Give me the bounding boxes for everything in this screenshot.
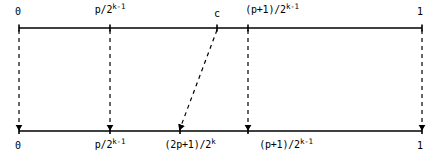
- bottom-label-one: 1: [417, 140, 423, 151]
- top-label-c: c: [214, 8, 220, 19]
- top-label-zero: 0: [15, 6, 21, 17]
- bottom-label-2p1-over-2k: (2p+1)/2k: [165, 139, 216, 150]
- top-label-p1-over-2k1: (p+1)/2k-1: [245, 4, 299, 15]
- bottom-label-p1-over-2k1: (p+1)/2k-1: [259, 139, 313, 150]
- bottom-label-p-over-2k1: p/2k-1: [95, 139, 125, 150]
- connector-c-to-mid: [181, 30, 217, 126]
- bottom-number-line: [19, 128, 422, 134]
- interval-mapping-figure: 0 p/2k-1 c (p+1)/2k-1 1 0 p/2k-1 (2p+1)/…: [0, 0, 438, 167]
- top-label-p-over-2k1: p/2k-1: [95, 4, 125, 15]
- top-number-line: [19, 25, 422, 32]
- top-label-one: 1: [417, 6, 423, 17]
- connector-arrows: [19, 30, 422, 126]
- figure-canvas: [0, 0, 438, 167]
- bottom-label-zero: 0: [15, 140, 21, 151]
